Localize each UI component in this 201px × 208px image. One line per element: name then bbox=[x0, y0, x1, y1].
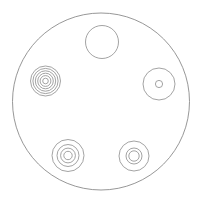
bottom-right-ring-target-ring-3 bbox=[129, 151, 139, 161]
technical-drawing-canvas: Circular plate with five concentric-ring… bbox=[0, 0, 201, 208]
top-plain-hole bbox=[86, 26, 119, 59]
outer-plate-boundary bbox=[13, 13, 190, 190]
plate-outline-group bbox=[13, 13, 190, 190]
left-multi-ring-target bbox=[31, 66, 61, 96]
right-hole-with-pin bbox=[143, 68, 175, 100]
left-multi-ring-target-ring-6 bbox=[43, 78, 49, 84]
top-plain-hole-ring-1 bbox=[86, 26, 119, 59]
bottom-left-ring-target-ring-3 bbox=[61, 148, 76, 163]
right-hole-with-pin-ring-2 bbox=[155, 80, 162, 87]
bottom-left-ring-target-ring-4 bbox=[64, 151, 72, 159]
left-multi-ring-target-ring-2 bbox=[33, 68, 58, 93]
bottom-right-ring-target bbox=[119, 141, 149, 171]
bottom-right-ring-target-ring-2 bbox=[126, 148, 142, 164]
left-multi-ring-target-ring-5 bbox=[40, 76, 51, 87]
bottom-left-ring-target bbox=[52, 140, 84, 172]
plate-features-group bbox=[31, 26, 176, 172]
right-hole-with-pin-ring-1 bbox=[143, 68, 175, 100]
plate-diagram-svg: Circular plate with five concentric-ring… bbox=[0, 0, 201, 208]
bottom-right-ring-target-ring-1 bbox=[119, 141, 149, 171]
left-multi-ring-target-ring-3 bbox=[35, 71, 55, 91]
